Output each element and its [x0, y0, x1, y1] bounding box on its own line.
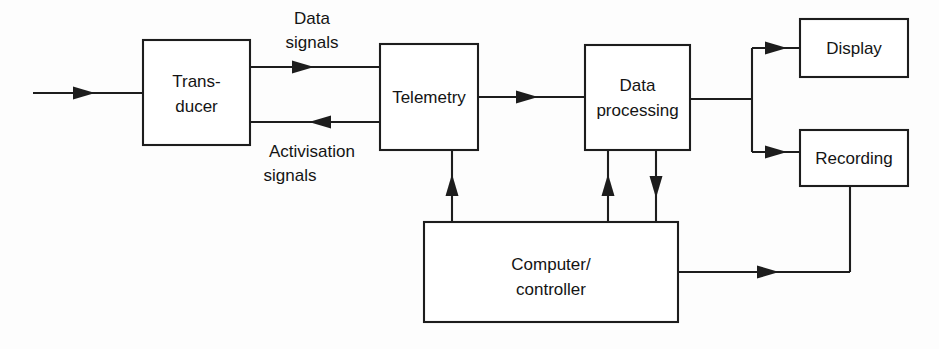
connector-computer-to-data-processing [602, 150, 615, 222]
edge-label-data-signals-line1: Data [294, 9, 330, 28]
edge-label-activisation-signals-line2: signals [264, 166, 317, 185]
block-display-label: Display [826, 39, 882, 58]
connector-transducer-to-telemetry [250, 61, 380, 74]
connector-data-processing-to-computer [650, 150, 663, 222]
block-computer-controller-label-line1: Computer/ [511, 255, 591, 274]
block-data-processing-label-line1: Data [620, 76, 656, 95]
block-data-processing-label-line2: processing [596, 101, 678, 120]
block-diagram: Trans- ducer Telemetry Data processing D… [0, 0, 939, 349]
diagram-canvas: Trans- ducer Telemetry Data processing D… [0, 0, 939, 349]
edge-label-data-signals-line2: signals [286, 33, 339, 52]
block-computer-controller[interactable]: Computer/ controller [424, 222, 678, 322]
connector-data-processing-to-outputs [690, 42, 800, 159]
block-display[interactable]: Display [800, 19, 908, 77]
edge-label-activisation-signals-line1: Activisation [269, 142, 355, 161]
edge-label-activisation-signals: Activisation signals [264, 142, 355, 185]
block-telemetry[interactable]: Telemetry [380, 44, 478, 150]
block-recording[interactable]: Recording [800, 130, 908, 186]
block-transducer[interactable]: Trans- ducer [143, 40, 250, 145]
edge-label-data-signals: Data signals [286, 9, 339, 52]
block-transducer-label-line1: Trans- [172, 72, 221, 91]
connector-telemetry-to-transducer [250, 116, 380, 129]
connector-telemetry-to-data-processing [478, 91, 585, 104]
block-computer-controller-label-line2: controller [516, 280, 586, 299]
connector-computer-to-recording [678, 186, 850, 279]
block-transducer-label-line2: ducer [175, 97, 218, 116]
block-recording-label: Recording [815, 149, 893, 168]
connector-computer-to-telemetry [446, 150, 459, 222]
block-telemetry-label: Telemetry [392, 88, 466, 107]
block-data-processing[interactable]: Data processing [585, 45, 690, 150]
connector-input-to-transducer [33, 87, 143, 100]
